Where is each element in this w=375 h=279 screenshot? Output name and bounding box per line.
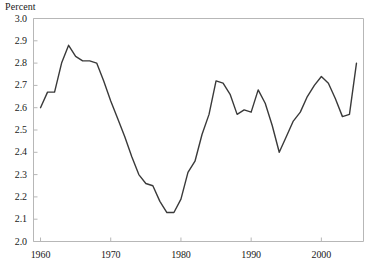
chart-container: Percent 3.02.92.82.72.62.52.42.32.22.12.… bbox=[0, 0, 375, 279]
data-line-series-percent bbox=[41, 45, 357, 212]
chart-plot-area bbox=[0, 0, 375, 279]
axis-tick-marks bbox=[34, 19, 322, 242]
plot-frame bbox=[34, 19, 364, 242]
